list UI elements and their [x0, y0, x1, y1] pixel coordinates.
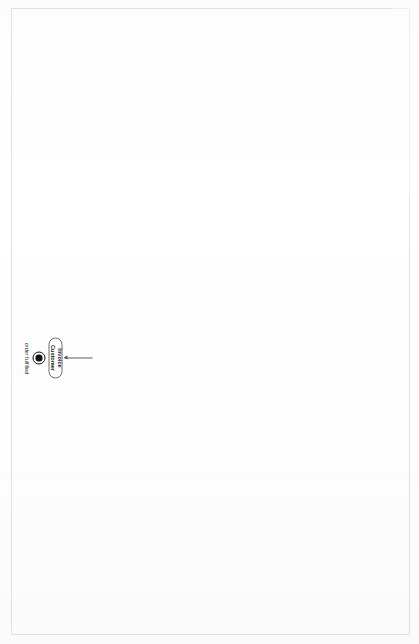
arrowhead — [119, 150, 123, 154]
arrowhead — [285, 150, 289, 154]
label-sales-dept-closed-down-text: Sales Dept. closed down — [95, 79, 101, 140]
action-allocate-stock: Allocate Stock — [174, 132, 200, 174]
note-line: own set of tokens. — [333, 428, 341, 536]
arrowhead — [292, 67, 296, 71]
action-closedown-dept: Closedown Dept. — [176, 47, 203, 92]
edge-prepare-to-despatch-right — [119, 358, 173, 359]
edge-closedown-to-final — [98, 69, 176, 70]
arrowhead — [201, 150, 205, 154]
action-prepare-despatch-sales-dept-label: Prepare Despatch — [98, 133, 112, 173]
flow-final-sales-dept — [99, 295, 112, 308]
label-customer-calls: customer calls — [357, 327, 364, 391]
edge-calls-to-record-order — [286, 153, 318, 154]
action-prepare-despatch-fulfil: Prepare Despatch — [173, 338, 199, 379]
action-prepare-despatch-sales-dept: Prepare Despatch — [92, 132, 118, 174]
arrowhead — [98, 67, 102, 71]
note-line: is a new instance of it for every Sales … — [341, 428, 349, 536]
note-line: Once instantiated, the instance will han… — [341, 188, 349, 304]
note-line: This Activity has the property isSingleE… — [350, 188, 358, 304]
edge-created-to-abolished — [293, 69, 329, 70]
scanned-page: act Ex.SB: Sales Order Process & Functio… — [0, 0, 419, 644]
action-allocate-stock-label: Allocate Stock — [184, 134, 191, 173]
edge-allocate-to-prepare — [120, 153, 174, 154]
note-line: This Activity has the property isSingleE… — [350, 428, 358, 536]
edge-prepare-stub — [91, 153, 92, 154]
edge-despatch-to-flowfinal — [105, 277, 106, 295]
note-line: Function rather than that of a Business … — [316, 188, 324, 304]
accept-event-sales-dept-abolished: Sales Dept. abolished — [251, 45, 291, 93]
arrowhead — [200, 356, 204, 360]
note-line: This Activity models the behaviour of a … — [325, 188, 333, 304]
label-customer-calls-text: customer calls — [358, 341, 364, 376]
action-record-order-sales-dept: Record Order — [258, 132, 284, 174]
partition-label-fulfil-order: Fulfil Order — [205, 325, 212, 361]
accept-event-customer-calls-label: customer calls — [326, 131, 356, 175]
accept-event-sales-dept-abolished-label: Sales Dept. abolished — [260, 45, 291, 93]
label-sales-dept-created: Sales Dept. created — [339, 77, 346, 125]
arrowhead — [284, 356, 288, 360]
activity-final-sales-dept-closed-down — [83, 63, 96, 76]
activity-diagram-canvas: act Ex.SB: Sales Order Process & Functio… — [0, 0, 419, 644]
edge-init-to-record-order — [285, 358, 335, 359]
initial-node-customer-calls — [335, 352, 348, 365]
partition-fulfil-order — [28, 319, 380, 411]
action-despatch-goods-sales-dept-label: Despatch Goods — [98, 236, 112, 276]
arrowhead — [204, 67, 208, 71]
action-record-order-fulfil: Record Order — [257, 338, 283, 379]
edge-record-to-allocate — [202, 153, 258, 154]
note-classifier-behaviour: This Activity has the property isSingleE… — [302, 181, 364, 311]
note-is-single-execution-false: This Activity has the property isSingleE… — [322, 421, 364, 543]
initial-node-sales-dept-created — [329, 63, 342, 76]
partition-label-sales-dept: Sales Dept. — [201, 109, 208, 145]
action-prepare-despatch-fulfil-label: Prepare Despatch — [179, 339, 193, 378]
action-despatch-goods-fulfil-label: Despatch Goods — [97, 339, 111, 378]
accept-event-customer-calls: customer calls — [318, 131, 356, 175]
action-closedown-dept-label: Closedown Dept. — [183, 48, 197, 91]
label-sales-dept-closed-down: Sales Dept. closed down — [94, 79, 101, 140]
diagram-frame: act Ex.SB: Sales Order Process & Functio… — [11, 8, 409, 634]
arrowhead — [104, 231, 108, 235]
action-record-order-sales-dept-label: Record Order — [268, 135, 275, 171]
action-despatch-goods-sales-dept: Despatch Goods — [92, 235, 118, 277]
diagram-frame-label: act Ex.SB: Sales Order Process & Functio… — [391, 8, 409, 195]
edge-record-to-prepare-right — [201, 358, 257, 359]
label-sales-dept-created-text: Sales Dept. created — [340, 77, 346, 125]
action-record-order-fulfil-label: Record Order — [267, 340, 274, 376]
edge-abolished-to-closedown — [205, 69, 251, 70]
arrowhead — [118, 356, 122, 360]
note-line: Orders, until it is abolished. — [333, 188, 341, 304]
edge-prepare-to-despatch-left — [105, 174, 106, 235]
action-despatch-goods-fulfil: Despatch Goods — [91, 338, 117, 379]
